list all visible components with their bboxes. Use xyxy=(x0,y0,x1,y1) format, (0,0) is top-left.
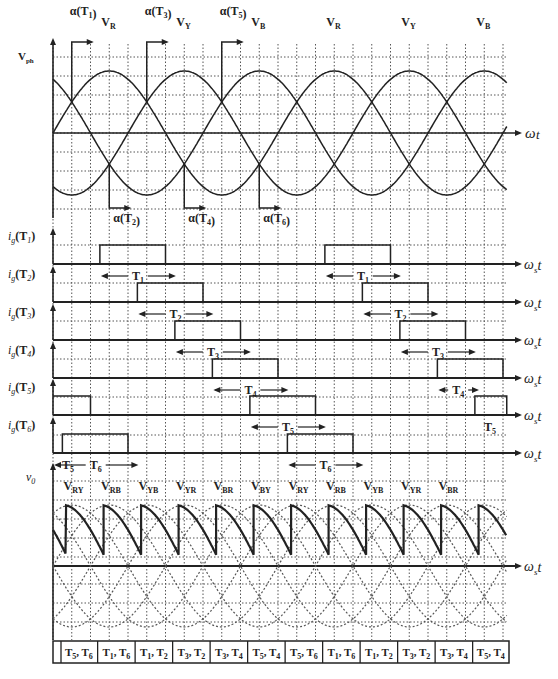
vo-axis-label: v0 xyxy=(26,470,35,486)
span-arrow-left-icon xyxy=(54,462,61,468)
conduction-cell: T1, T6 xyxy=(327,646,355,661)
time-axis-arrow-icon xyxy=(515,563,522,569)
span-arrow-right-icon xyxy=(319,424,326,430)
firing-label-t2: α(T2) xyxy=(113,211,140,228)
gate-row-label-t1: ig(T1) xyxy=(8,229,35,245)
time-axis-arrow-icon xyxy=(515,299,522,305)
gate-pulse-panel: ig(T1)ωstT1T1ig(T2)ωstT2T2ig(T3)ωstT3T3i… xyxy=(8,228,542,474)
conduction-span-label: T4 xyxy=(452,383,464,399)
span-arrow-left-icon xyxy=(288,462,295,468)
output-voltage-waveform xyxy=(53,505,506,554)
span-arrow-left-icon xyxy=(363,311,370,317)
conduction-span-label: T6 xyxy=(319,458,331,474)
firing-marker-top xyxy=(222,42,239,102)
phase-label-y: VY xyxy=(401,15,416,31)
time-axis-label: ωst xyxy=(524,408,542,426)
line-voltage-label-by: VBY xyxy=(251,479,271,495)
span-arrow-left-icon xyxy=(326,273,333,279)
firing-label-t1: α(T1) xyxy=(70,4,97,21)
span-arrow-right-icon xyxy=(469,349,476,355)
phase-voltage-panel: VphωtsVRVYVBVRVYVBα(T1)α(T3)α(T5)α(T2)α(… xyxy=(18,4,540,228)
conduction-cell: T1, T2 xyxy=(365,646,393,661)
firing-label-t5: α(T5) xyxy=(220,4,247,21)
span-arrow-right-icon xyxy=(131,462,138,468)
conduction-cell: T5, T6 xyxy=(290,646,318,661)
span-arrow-right-icon xyxy=(394,273,401,279)
time-axis-label: ωst xyxy=(524,559,542,577)
time-axis-label: ωst xyxy=(524,333,542,351)
conduction-cell: T3, T2 xyxy=(177,646,205,661)
span-arrow-left-icon xyxy=(138,311,145,317)
conduction-cell: T5, T4 xyxy=(252,646,280,661)
conduction-span-label: T5 xyxy=(62,458,74,474)
span-arrow-left-icon xyxy=(401,349,408,355)
span-arrow-right-icon xyxy=(281,387,288,393)
conduction-cell: T1, T6 xyxy=(102,646,130,661)
time-axis-label: ω xyxy=(525,125,536,141)
firing-marker-top xyxy=(147,42,164,102)
conduction-cell: T3, T2 xyxy=(402,646,430,661)
gate-pulse xyxy=(212,359,278,378)
time-axis-arrow-icon xyxy=(515,412,522,418)
conduction-span-label: T6 xyxy=(90,458,102,474)
conduction-cell: T5, T4 xyxy=(477,646,505,661)
span-arrow-right-icon xyxy=(356,462,363,468)
gate-pulse xyxy=(437,359,503,378)
converter-waveform-diagram: VphωtsVRVYVBVRVYVBα(T1)α(T3)α(T5)α(T2)α(… xyxy=(0,0,558,679)
firing-label-t6: α(T6) xyxy=(263,211,290,228)
time-axis-arrow-icon xyxy=(515,450,522,456)
line-voltage-label-br: VBR xyxy=(214,479,234,495)
span-arrow-right-icon xyxy=(431,311,438,317)
phase-label-b: VB xyxy=(251,15,266,31)
time-axis-arrow-icon xyxy=(515,261,522,267)
conduction-span-label: T5 xyxy=(484,420,496,436)
span-arrow-right-icon xyxy=(206,311,213,317)
span-arrow-left-icon xyxy=(101,273,108,279)
span-arrow-left-icon xyxy=(251,424,258,430)
vph-axis-arrow-icon xyxy=(50,38,56,45)
phase-label-r: VR xyxy=(101,15,116,31)
time-axis-arrow-icon xyxy=(515,130,522,136)
conduction-cell: T1, T2 xyxy=(140,646,168,661)
gate-pulse xyxy=(175,321,241,340)
span-arrow-right-icon xyxy=(169,273,176,279)
gate-row-label-t4: ig(T4) xyxy=(8,343,35,359)
phase-label-b: VB xyxy=(476,15,491,31)
span-arrow-left-icon xyxy=(438,387,445,393)
gate-row-label-t3: ig(T3) xyxy=(8,305,35,321)
span-arrow-right-icon xyxy=(472,387,479,393)
output-voltage-panel: v0ωstVRYVRBVYBVYRVBRVBYVRYVRBVYBVYRVBR xyxy=(26,463,542,640)
firing-label-t3: α(T3) xyxy=(145,4,172,21)
phase-label-r: VR xyxy=(326,15,341,31)
gate-row-label-t5: ig(T5) xyxy=(8,380,35,396)
time-axis-label: ωst xyxy=(524,295,542,313)
firing-label-t4: α(T4) xyxy=(188,211,215,228)
gate-pulse xyxy=(475,396,507,415)
time-axis-label: ωst xyxy=(524,371,542,389)
gate-row-label-t6: ig(T6) xyxy=(8,418,35,434)
time-axis-label: ωst xyxy=(524,446,542,464)
conduction-cell: T5, T6 xyxy=(65,646,93,661)
firing-marker-top xyxy=(72,42,89,102)
conduction-cell: T3, T4 xyxy=(440,646,468,661)
time-axis-arrow-icon xyxy=(515,375,522,381)
time-axis-arrow-icon xyxy=(515,337,522,343)
phase-label-y: VY xyxy=(176,15,191,31)
span-arrow-left-icon xyxy=(213,387,220,393)
line-voltage-label-rb: VRB xyxy=(326,479,346,495)
gate-row-label-t2: ig(T2) xyxy=(8,267,35,283)
conduction-sequence-table: T5, T6T1, T6T1, T2T3, T2T3, T4T5, T4T5, … xyxy=(53,641,509,663)
vph-axis-label: Vph xyxy=(18,50,34,65)
vo-axis-arrow-icon xyxy=(50,463,56,470)
time-axis-label: ωst xyxy=(524,257,542,275)
waveform-figure: VphωtsVRVYVBVRVYVBα(T1)α(T3)α(T5)α(T2)α(… xyxy=(0,0,558,679)
conduction-cell: T3, T4 xyxy=(215,646,243,661)
gate-pulse xyxy=(400,321,466,340)
time-axis-label-t: t xyxy=(536,127,540,142)
line-voltage-label-yb: VYB xyxy=(364,479,384,495)
line-voltage-label-ry: VRY xyxy=(64,479,84,495)
span-arrow-left-icon xyxy=(176,349,183,355)
span-arrow-right-icon xyxy=(244,349,251,355)
line-voltage-label-rb: VRB xyxy=(101,479,121,495)
